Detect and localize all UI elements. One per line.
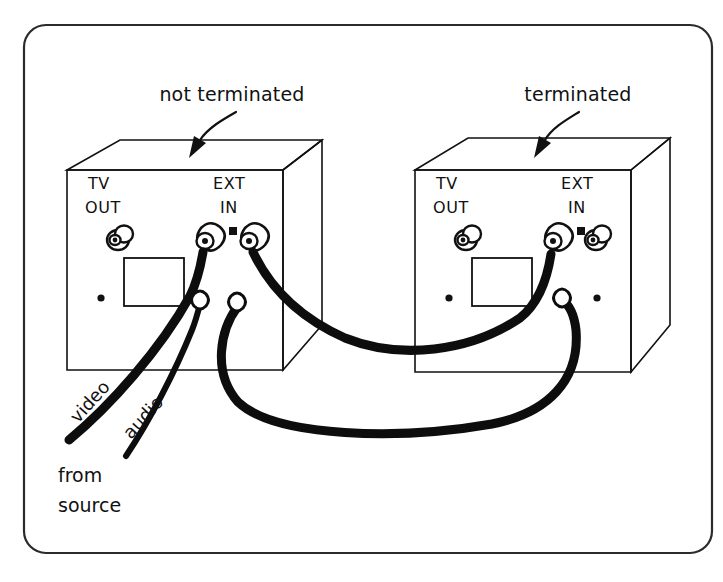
callout-label-terminated: terminated — [524, 83, 631, 105]
right-tv-screw-dot-right — [593, 294, 600, 301]
callout-arrow-right — [534, 112, 579, 158]
left-ext-in-jack-b[interactable] — [241, 223, 269, 250]
left-tv-indicator-square — [229, 227, 237, 235]
left-tv-unit[interactable]: TV OUT EXT IN — [67, 140, 322, 370]
cable-loop-upper[interactable] — [253, 252, 551, 350]
left-tv-panel-cutout — [124, 258, 184, 306]
right-ext-in-jack-a[interactable] — [545, 223, 573, 250]
from-source-line1: from — [58, 464, 102, 486]
right-ext-in-label-in: IN — [568, 198, 586, 217]
left-tv-side-face — [283, 140, 322, 370]
right-tv-out-jack[interactable] — [455, 226, 481, 251]
right-tv-unit[interactable]: TV OUT EXT IN — [415, 138, 670, 372]
left-tv-out-label-out: OUT — [85, 198, 121, 217]
left-tv-out-label-tv: TV — [87, 174, 110, 193]
audio-plug-tip — [192, 291, 209, 309]
right-tv-side-face — [631, 138, 670, 372]
left-ext-in-label-ext: EXT — [213, 174, 245, 193]
right-ext-in-jack-b[interactable] — [585, 226, 611, 251]
audio-loop-plug-tip-left — [229, 293, 246, 311]
left-tv-out-jack[interactable] — [107, 226, 133, 251]
right-tv-panel-cutout — [472, 258, 532, 306]
loop-plug-tip-right — [554, 289, 571, 307]
left-tv-screw-dot — [97, 294, 104, 301]
right-tv-out-label-out: OUT — [433, 198, 469, 217]
callout-arrow-left — [189, 112, 236, 158]
right-tv-screw-dot-left — [445, 294, 452, 301]
left-ext-in-jack-a[interactable] — [197, 223, 225, 250]
callout-label-not-terminated: not terminated — [159, 83, 304, 105]
right-tv-out-label-tv: TV — [435, 174, 458, 193]
right-ext-in-label-ext: EXT — [561, 174, 593, 193]
figure-root: TV OUT EXT IN — [0, 0, 723, 582]
from-source-line2: source — [58, 494, 121, 516]
cable-label-audio: audio — [118, 392, 167, 443]
left-ext-in-label-in: IN — [220, 198, 238, 217]
tv-termination-diagram: TV OUT EXT IN — [0, 0, 723, 582]
right-tv-indicator-square — [577, 227, 585, 235]
